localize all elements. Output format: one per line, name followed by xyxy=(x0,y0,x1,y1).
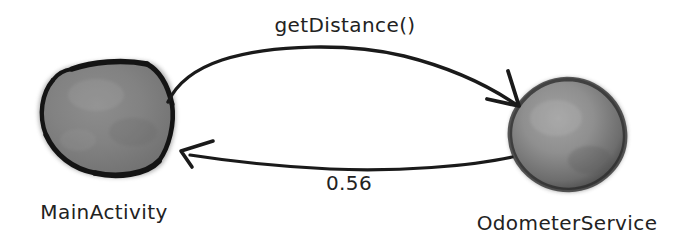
diagram-canvas: getDistance() 0.56 MainActivity Odometer… xyxy=(0,0,687,243)
return-arrow-line xyxy=(190,155,512,170)
edge-return-value[interactable] xyxy=(181,141,512,170)
node-main-activity[interactable] xyxy=(39,60,176,178)
call-arrow-line xyxy=(168,47,517,105)
diagram-svg: getDistance() 0.56 MainActivity Odometer… xyxy=(0,0,687,243)
return-arrow-head xyxy=(181,141,213,167)
node-label-main-activity: MainActivity xyxy=(40,200,167,224)
edge-label-getdistance: getDistance() xyxy=(274,13,415,37)
node-odometer-service[interactable] xyxy=(509,78,627,192)
node-label-odometer-service: OdometerService xyxy=(477,211,658,235)
edge-label-return-value: 0.56 xyxy=(326,171,372,195)
edge-call-getdistance[interactable] xyxy=(168,47,519,106)
